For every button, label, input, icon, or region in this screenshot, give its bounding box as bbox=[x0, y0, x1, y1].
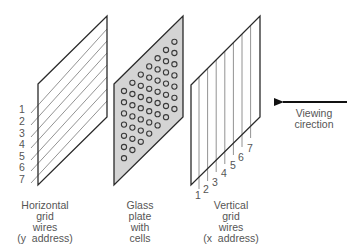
horizontal-wire-1 bbox=[31, 29, 107, 113]
vertical-wire-label-5: 5 bbox=[230, 159, 236, 171]
glass-plate-panel: Glass plate with cells bbox=[114, 16, 183, 244]
vertical-wire-label-6: 6 bbox=[238, 151, 244, 163]
caption-line: cells bbox=[129, 232, 150, 244]
horizontal-wire-labels: 1 2 3 4 5 6 7 bbox=[19, 103, 25, 185]
vertical-wire-labels: 1 2 3 4 5 6 7 bbox=[195, 142, 253, 201]
vertical-wire-label-4: 4 bbox=[221, 167, 227, 179]
horizontal-wire-caption: Horizontal grid wires (y address) bbox=[17, 199, 72, 244]
display-structure-diagram: 1 2 3 4 5 6 7 Horizontal grid wires (y a… bbox=[0, 0, 357, 249]
horizontal-wire-3 bbox=[31, 53, 107, 137]
horizontal-wire-6 bbox=[31, 89, 107, 171]
caption-line: (y address) bbox=[17, 232, 72, 244]
vertical-wire-label-7: 7 bbox=[247, 142, 253, 154]
caption-line: (x address) bbox=[203, 232, 258, 244]
horizontal-wire-label-1: 1 bbox=[19, 103, 25, 115]
horizontal-wire-panel: 1 2 3 4 5 6 7 Horizontal grid wires (y a… bbox=[17, 16, 107, 244]
glass-plate bbox=[114, 16, 183, 185]
vertical-wire-caption: Vertical grid wires (x address) bbox=[203, 199, 258, 244]
glass-plate-caption: Glass plate with cells bbox=[127, 199, 154, 244]
vertical-wire-panel: 1 2 3 4 5 6 7 Vertical grid wires (x add… bbox=[191, 16, 260, 244]
horizontal-wire-label-6: 6 bbox=[19, 161, 25, 173]
horizontal-wire-4 bbox=[31, 65, 107, 148]
viewing-direction: Viewing cirection bbox=[283, 102, 347, 130]
horizontal-wire-label-7: 7 bbox=[19, 173, 25, 185]
horizontal-wire-5 bbox=[31, 77, 107, 160]
horizontal-wire-label-4: 4 bbox=[19, 138, 25, 150]
vertical-wire-label-1: 1 bbox=[195, 189, 201, 201]
vertical-wire-frame bbox=[191, 16, 260, 185]
horizontal-wires bbox=[31, 29, 107, 183]
vertical-wire-label-2: 2 bbox=[203, 183, 209, 195]
viewing-direction-label: cirection bbox=[294, 118, 333, 130]
vertical-wire-label-3: 3 bbox=[212, 176, 218, 188]
horizontal-wire-label-2: 2 bbox=[19, 115, 25, 127]
horizontal-wire-7 bbox=[31, 101, 107, 183]
